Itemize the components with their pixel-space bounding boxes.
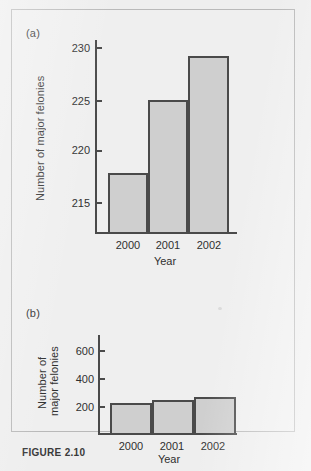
panel-a-bar-2000: [108, 173, 148, 234]
panel-a-x-axis-title: Year: [125, 255, 205, 267]
panel-b-tickmark-600: [99, 350, 105, 352]
panel-a-ytick-230: 230: [54, 42, 90, 54]
panel-a-y-axis-title: Number of major felonies: [34, 58, 46, 218]
panel-a-ytick-215: 215: [54, 197, 90, 209]
panel-a-tickmark-225: [96, 100, 102, 102]
panel-a-letter: (a): [26, 27, 40, 39]
chart-panel-a: (a) Number of major felonies 230 225 220…: [12, 10, 296, 295]
panel-b-bar-2001: [152, 400, 194, 435]
chart-panel-b: (b) Number of major felonies 600 400 200…: [12, 295, 296, 433]
panel-a-y-axis-line: [95, 40, 97, 234]
panel-b-tickmark-200: [99, 406, 105, 408]
panel-a-tickmark-220: [96, 150, 102, 152]
figure-page: (a) Number of major felonies 230 225 220…: [0, 0, 311, 471]
panel-a-bar-2001: [148, 100, 188, 234]
scan-speckle: [218, 307, 222, 310]
panel-a-ytick-220: 220: [54, 144, 90, 156]
panel-a-bar-2002: [188, 56, 229, 234]
figure-frame: (a) Number of major felonies 230 225 220…: [11, 9, 295, 432]
panel-b-ytick-600: 600: [58, 345, 94, 357]
panel-b-tickmark-400: [99, 378, 105, 380]
panel-b-bar-2002: [194, 397, 236, 435]
figure-caption: FIGURE 2.10: [22, 447, 85, 458]
panel-a-tickmark-215: [96, 202, 102, 204]
panel-b-x-axis-title: Year: [129, 453, 209, 465]
panel-b-ytick-400: 400: [58, 373, 94, 385]
panel-b-bar-2000: [110, 403, 152, 435]
panel-b-xtick-2002: 2002: [185, 440, 241, 452]
panel-b-letter: (b): [26, 307, 40, 319]
panel-a-xtick-2002: 2002: [181, 239, 237, 251]
panel-b-ytick-200: 200: [58, 401, 94, 413]
panel-a-ytick-225: 225: [54, 95, 90, 107]
panel-a-tickmark-230: [96, 47, 102, 49]
